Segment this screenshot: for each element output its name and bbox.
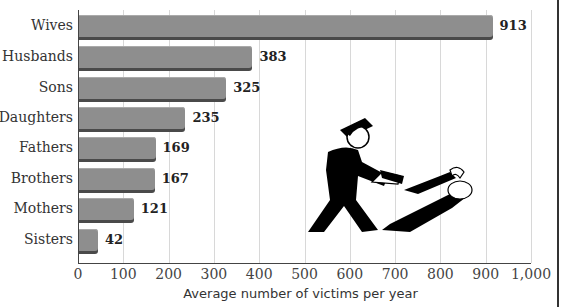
x-tick-label: 900 — [472, 266, 499, 282]
value-label: 121 — [141, 201, 168, 216]
bar-wives — [79, 15, 493, 37]
value-label: 169 — [163, 140, 190, 155]
x-tick-label: 300 — [201, 266, 228, 282]
category-label: Mothers — [13, 200, 73, 216]
category-label: Brothers — [11, 170, 73, 186]
bar-daughters — [79, 107, 185, 129]
category-label: Husbands — [2, 48, 73, 64]
frame-border — [557, 0, 559, 307]
bar-brothers — [79, 168, 155, 190]
category-label: Fathers — [19, 139, 73, 155]
bar-mothers — [79, 198, 134, 220]
gridline — [531, 10, 532, 263]
x-tick-label: 100 — [110, 266, 137, 282]
x-tick-label: 1,000 — [511, 266, 551, 282]
x-axis-label: Average number of victims per year — [0, 286, 561, 301]
value-label: 235 — [192, 110, 219, 125]
value-label: 325 — [233, 80, 260, 95]
value-label: 167 — [162, 171, 189, 186]
gunman-illustration-icon — [300, 90, 480, 240]
x-tick-label: 200 — [155, 266, 182, 282]
bar-sons — [79, 77, 226, 99]
x-tick-label: 600 — [336, 266, 363, 282]
x-tick-label: 700 — [382, 266, 409, 282]
category-label: Wives — [31, 17, 73, 33]
category-label: Daughters — [0, 109, 73, 125]
bar-husbands — [79, 46, 252, 68]
value-label: 383 — [259, 49, 286, 64]
category-label: Sisters — [24, 231, 73, 247]
value-label: 913 — [500, 18, 527, 33]
category-label: Sons — [39, 79, 73, 95]
x-tick-label: 800 — [427, 266, 454, 282]
x-tick-label: 400 — [246, 266, 273, 282]
bar-fathers — [79, 137, 156, 159]
gridline — [486, 10, 487, 263]
value-label: 42 — [105, 232, 123, 247]
x-axis — [78, 263, 531, 264]
gridline — [259, 10, 260, 263]
x-tick-label: 500 — [291, 266, 318, 282]
bar-sisters — [79, 229, 98, 251]
x-tick-label: 0 — [74, 266, 83, 282]
